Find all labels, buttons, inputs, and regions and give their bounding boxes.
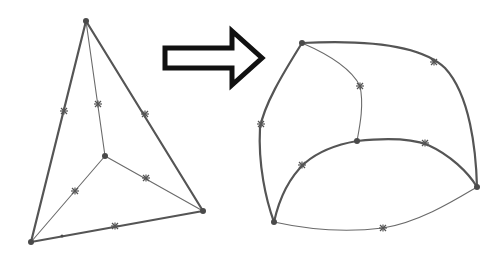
corner-node <box>28 239 34 245</box>
corner-node <box>354 138 360 144</box>
mid-node-marker <box>421 140 429 147</box>
corner-node <box>474 184 480 190</box>
edge-c-d <box>274 187 477 230</box>
corner-node <box>271 219 277 225</box>
mid-node-marker <box>94 101 102 108</box>
mid-node-marker <box>71 188 79 195</box>
mid-node-marker <box>257 121 265 128</box>
mid-node-marker <box>141 111 149 118</box>
edge-b-c <box>274 141 357 222</box>
mid-node-marker <box>298 162 306 169</box>
mid-node-marker <box>356 83 364 90</box>
mid-node-marker <box>430 59 438 66</box>
mid-node-marker <box>111 223 119 230</box>
mid-node-marker <box>60 108 68 115</box>
element-mapping-diagram <box>0 0 500 260</box>
small-node <box>61 235 64 238</box>
corner-node <box>299 40 305 46</box>
corner-node <box>200 208 206 214</box>
mid-node-marker <box>142 175 150 182</box>
edge-b-d <box>357 139 477 187</box>
corner-node <box>102 153 108 159</box>
corner-node <box>83 18 89 24</box>
edge-b-d <box>105 156 203 211</box>
edge-a-c <box>31 21 86 242</box>
right-curved-element <box>257 40 480 232</box>
edge-a-d <box>302 42 477 187</box>
edge-a-c <box>260 43 302 222</box>
right-arrow-icon <box>165 31 262 85</box>
edge-a-b <box>86 21 105 156</box>
mid-node-marker <box>379 225 387 232</box>
edge-a-b <box>302 43 362 141</box>
